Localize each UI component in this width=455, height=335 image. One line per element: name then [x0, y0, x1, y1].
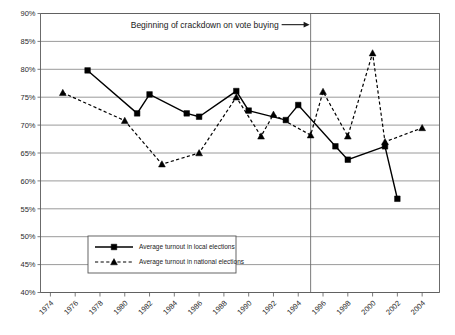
x-axis-label-1998: 1998: [335, 299, 353, 317]
data-point-national-1975: [59, 89, 66, 95]
data-point-local-1989: [233, 88, 239, 94]
data-point-local-1982: [147, 92, 153, 98]
data-point-local-1977: [85, 68, 91, 74]
data-point-national-1991: [258, 133, 265, 139]
legend-box: [88, 236, 236, 273]
x-axis-label-2004: 2004: [409, 299, 427, 317]
x-axis-label-1982: 1982: [136, 299, 154, 317]
data-point-national-1980: [121, 117, 128, 123]
x-axis-label-1986: 1986: [186, 299, 204, 317]
y-axis-label-80: 80%: [20, 65, 35, 74]
x-axis-label-2000: 2000: [359, 299, 377, 317]
turnout-line-chart: 90%85%80%75%70%65%60%55%50%45%40% 197419…: [0, 0, 455, 335]
data-point-national-1983: [159, 161, 166, 167]
legend-label-0: Average turnout in local elections: [139, 243, 235, 251]
x-axis-label-1976: 1976: [62, 299, 80, 317]
y-axis-ticks-group: 90%85%80%75%70%65%60%55%50%45%40%: [20, 9, 40, 297]
data-point-national-1996: [320, 88, 327, 94]
y-axis-label-40: 40%: [20, 288, 35, 297]
series-line-national: [63, 53, 422, 164]
legend-label-1: Average turnout in national elections: [139, 258, 245, 266]
data-point-local-1998: [345, 157, 351, 163]
x-axis-label-1980: 1980: [112, 299, 130, 317]
data-point-national-2000: [369, 50, 376, 56]
chart-container: 90%85%80%75%70%65%60%55%50%45%40% 197419…: [0, 0, 455, 335]
y-axis-label-50: 50%: [20, 232, 35, 241]
y-axis-label-65: 65%: [20, 149, 35, 158]
y-axis-label-55: 55%: [20, 205, 35, 214]
x-axis-label-1984: 1984: [161, 299, 179, 317]
x-axis-label-1974: 1974: [37, 299, 55, 317]
x-axis-label-2002: 2002: [384, 299, 402, 317]
x-axis-label-1978: 1978: [87, 299, 105, 317]
data-point-local-1981: [134, 111, 140, 117]
crackdown-annotation-text: Beginning of crackdown on vote buying: [131, 20, 279, 30]
y-axis-label-70: 70%: [20, 121, 35, 130]
data-point-local-2002: [395, 196, 401, 202]
crackdown-annotation-arrow-head: [304, 22, 310, 28]
x-axis-label-1994: 1994: [285, 299, 303, 317]
data-point-local-1993: [283, 117, 289, 123]
x-axis-label-1988: 1988: [211, 299, 229, 317]
x-axis-label-1990: 1990: [235, 299, 253, 317]
x-axis-label-1992: 1992: [260, 299, 278, 317]
y-axis-label-45: 45%: [20, 260, 35, 269]
chart-legend: Average turnout in local electionsAverag…: [88, 236, 245, 273]
y-axis-label-75: 75%: [20, 93, 35, 102]
data-point-national-1992: [270, 111, 277, 117]
x-axis-ticks-group: 1974197619781980198219841986198819901992…: [37, 293, 427, 317]
data-series-group: [59, 50, 425, 202]
data-point-local-1990: [246, 108, 252, 114]
data-point-national-1995: [307, 132, 314, 138]
legend-marker-square-0: [111, 244, 117, 250]
data-point-local-1997: [333, 144, 339, 150]
data-point-local-1994: [295, 102, 301, 108]
data-point-local-1986: [196, 114, 202, 120]
x-axis-label-1996: 1996: [310, 299, 328, 317]
series-line-local: [88, 70, 398, 198]
y-axis-label-90: 90%: [20, 9, 35, 18]
data-point-local-1985: [184, 111, 190, 117]
y-axis-label-60: 60%: [20, 177, 35, 186]
data-point-national-1998: [344, 133, 351, 139]
annotation-group: Beginning of crackdown on vote buying: [131, 20, 310, 30]
data-point-national-2001: [382, 138, 389, 144]
y-axis-label-85: 85%: [20, 37, 35, 46]
